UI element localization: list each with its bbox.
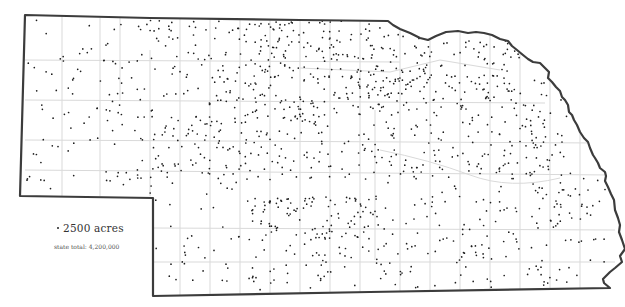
map-legend: 2500 acres state total: 4,200,000 xyxy=(57,222,124,234)
dot-symbol-icon xyxy=(57,227,59,229)
state-border xyxy=(20,15,625,296)
legend-dot-label: 2500 acres xyxy=(63,222,124,234)
nebraska-dot-density-map xyxy=(0,0,625,307)
legend-state-total: state total: 4,200,000 xyxy=(54,243,119,250)
legend-dot-value: 2500 acres xyxy=(57,222,124,234)
